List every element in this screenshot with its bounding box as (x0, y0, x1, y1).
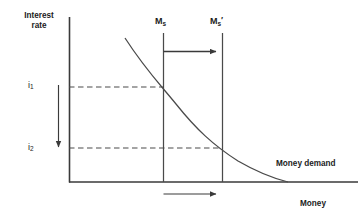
money-supply-label-ms-prime: Ms′ (210, 15, 223, 27)
money-supply-label-ms-prime-mark: ′ (221, 15, 223, 25)
diagram-canvas (0, 0, 362, 219)
money-supply-label-ms-prime-base: M (210, 16, 218, 26)
money-demand-label: Money demand (276, 159, 336, 169)
rate-label-i2: i2 (28, 142, 34, 153)
x-axis-label: Money (300, 199, 326, 209)
money-supply-label-ms-base: M (155, 16, 163, 26)
y-axis-label-line1: Interest (24, 11, 54, 20)
y-axis-label: Interestrate (14, 11, 64, 30)
rate-label-i1-subscript: 1 (30, 83, 34, 90)
rate-label-i1: i1 (28, 80, 34, 91)
money-supply-label-ms: Ms (155, 15, 166, 27)
rate-label-i2-subscript: 2 (30, 145, 34, 152)
y-axis-label-line2: rate (31, 21, 46, 30)
money-supply-label-ms-subscript: s (163, 20, 167, 27)
money-demand-curve (125, 38, 288, 182)
money-market-diagram: Interestrate Money i1 i2 Ms Ms′ Money de… (0, 0, 362, 219)
